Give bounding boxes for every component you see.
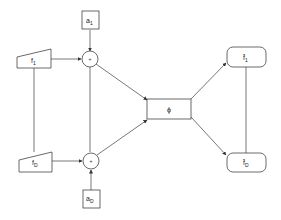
- svg-text:+: +: [89, 56, 92, 62]
- svg-text:ϕ: ϕ: [167, 106, 171, 114]
- svg-text:+: +: [90, 158, 93, 164]
- node-sumD: +: [83, 153, 99, 169]
- node-phi: ϕ: [147, 99, 191, 119]
- edge-phi-fhatD: [191, 117, 226, 155]
- node-f1: f1: [17, 49, 51, 68]
- node-a1: a1: [82, 11, 99, 29]
- diagram-canvas: a1 f1 + fD + aD ϕ: [0, 0, 281, 220]
- node-aD: aD: [83, 190, 100, 208]
- edge-sumD-phi: [97, 120, 147, 155]
- node-fhatD: f̂D: [227, 153, 266, 172]
- node-sum1: +: [82, 51, 98, 67]
- edge-phi-fhat1: [191, 63, 226, 99]
- node-fhat1: f̂1: [227, 47, 266, 67]
- edge-sum1-phi: [96, 64, 147, 100]
- node-fD: fD: [19, 152, 52, 172]
